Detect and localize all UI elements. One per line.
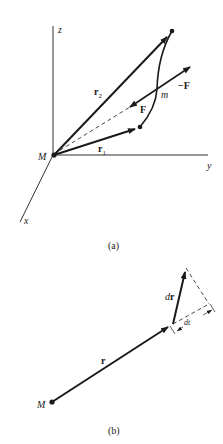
origin-point-M [51, 152, 56, 157]
y-axis-label: y [206, 160, 212, 171]
origin-label-M-b: M [36, 399, 46, 410]
r-label: r [101, 355, 106, 366]
x-axis [20, 155, 53, 222]
mass-label-m: m [161, 89, 168, 100]
figure-a: z y x M r2 r1 F −F m (a) [20, 24, 212, 252]
origin-point-M-b [49, 399, 54, 404]
vector-r [52, 327, 168, 402]
caption-a: (a) [108, 240, 119, 252]
z-axis-label: z [57, 24, 62, 35]
dt-dimension-right [203, 310, 212, 315]
caption-b: (b) [108, 425, 120, 437]
origin-label-M: M [37, 151, 47, 162]
figure-b: dt M r dr (b) [36, 268, 215, 437]
dt-label: dt [184, 318, 191, 327]
dt-tick-left [170, 326, 175, 334]
dashed-line-dr-to-corner [186, 268, 209, 304]
F-label: F [140, 104, 146, 115]
dt-dimension-left [177, 327, 183, 331]
neg-F-label: −F [178, 80, 190, 91]
vector-dr [173, 272, 185, 324]
dr-label: dr [165, 291, 175, 302]
r2-label: r2 [94, 86, 102, 100]
mechanics-diagram: z y x M r2 r1 F −F m (a) [0, 0, 223, 444]
x-axis-label: x [23, 215, 29, 226]
dashed-line-extension [173, 304, 209, 324]
